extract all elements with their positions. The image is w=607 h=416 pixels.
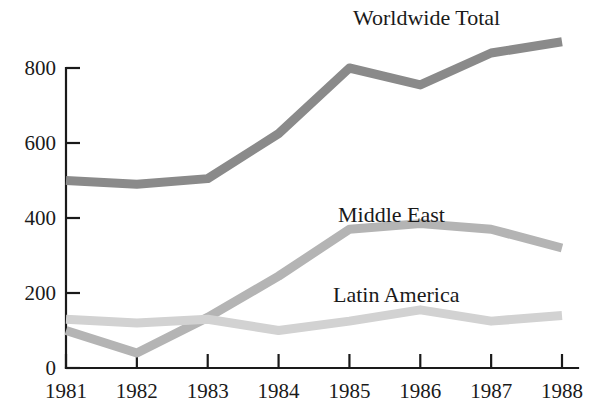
series-label-latin-america: Latin America: [333, 282, 460, 307]
chart-canvas: 0200400600800 19811982198319841985198619…: [0, 0, 607, 416]
series-label-worldwide-total: Worldwide Total: [353, 5, 500, 30]
y-tick-label-600: 600: [25, 131, 57, 155]
x-tick-label-1985: 1985: [328, 379, 370, 403]
y-tick-label-200: 200: [25, 281, 57, 305]
x-axis-tick-labels: 19811982198319841985198619871988: [45, 379, 583, 403]
x-axis-group: 19811982198319841985198619871988: [45, 354, 583, 403]
series-lines-group: [66, 42, 562, 353]
y-tick-label-400: 400: [25, 206, 57, 230]
x-tick-label-1981: 1981: [45, 379, 87, 403]
y-tick-label-800: 800: [25, 56, 57, 80]
y-axis-tick-labels: 0200400600800: [25, 56, 57, 380]
x-tick-label-1986: 1986: [399, 379, 441, 403]
line-chart: 0200400600800 19811982198319841985198619…: [0, 0, 607, 416]
x-tick-label-1983: 1983: [187, 379, 229, 403]
x-tick-label-1988: 1988: [541, 379, 583, 403]
x-tick-label-1984: 1984: [258, 379, 301, 403]
series-line-latin-america: [66, 310, 562, 331]
series-line-middle-east: [66, 224, 562, 353]
x-tick-label-1982: 1982: [116, 379, 158, 403]
series-annotations-group: Worldwide TotalMiddle EastLatin America: [333, 5, 500, 307]
series-line-worldwide-total: [66, 42, 562, 185]
x-tick-label-1987: 1987: [470, 379, 512, 403]
series-label-middle-east: Middle East: [338, 202, 445, 227]
y-tick-label-0: 0: [46, 356, 57, 380]
